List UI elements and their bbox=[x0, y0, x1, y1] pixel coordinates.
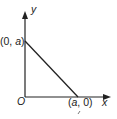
point-label-x-intercept: (a, 0) bbox=[68, 96, 93, 108]
y-axis-label: y bbox=[30, 3, 37, 15]
y-axis-arrow-icon bbox=[22, 11, 28, 19]
coordinate-diagram: y x O (0, a) (a, 0) bbox=[0, 0, 117, 119]
x-axis-label: x bbox=[101, 96, 108, 108]
point-label-y-intercept: (0, a) bbox=[0, 35, 25, 47]
line-segment bbox=[25, 41, 78, 97]
tick-mark bbox=[78, 111, 80, 114]
origin-label: O bbox=[17, 95, 25, 107]
